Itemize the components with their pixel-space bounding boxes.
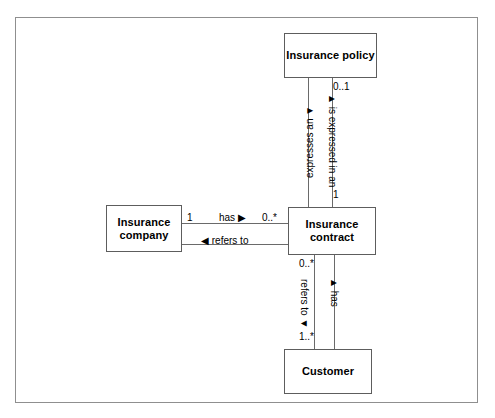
role-label-has-vertical: ▲ has (329, 278, 340, 307)
entity-insurance-company-label-line2: company (120, 229, 169, 241)
role-label-expresses-an: expresses an ▼ (304, 106, 315, 178)
role-label-is-expressed-in-an: ▲ is expressed in an (327, 94, 338, 187)
multiplicity-contract-1: 1 (333, 189, 339, 200)
entity-insurance-company-label: Insurance company (118, 216, 171, 242)
entity-customer-label: Customer (302, 365, 354, 378)
multiplicity-contract-bottom-0-star: 0..* (299, 258, 314, 269)
diagram-canvas: Insurance policy Insurance company Insur… (0, 0, 495, 418)
association-line-has-horizontal (182, 223, 288, 224)
entity-customer[interactable]: Customer (284, 349, 372, 394)
multiplicity-customer-1-star: 1..* (299, 331, 314, 342)
entity-insurance-contract-label-line2: contract (310, 231, 354, 243)
role-label-refers-to-horizontal: ◀ refers to (201, 235, 248, 246)
entity-insurance-policy[interactable]: Insurance policy (284, 33, 377, 78)
diagram-frame: Insurance policy Insurance company Insur… (15, 17, 478, 403)
association-line-refers-to-vertical (314, 255, 315, 349)
entity-insurance-contract-label: Insurance contract (306, 218, 359, 244)
role-label-has-horizontal: has ▶ (219, 212, 246, 223)
entity-insurance-policy-label: Insurance policy (286, 49, 374, 62)
multiplicity-contract-0-star: 0..* (262, 212, 277, 223)
multiplicity-company-1: 1 (187, 212, 193, 223)
entity-insurance-contract[interactable]: Insurance contract (288, 207, 376, 255)
entity-insurance-company[interactable]: Insurance company (106, 205, 182, 252)
entity-insurance-company-label-line1: Insurance (118, 216, 171, 228)
multiplicity-policy-0-1: 0..1 (333, 81, 350, 92)
entity-insurance-contract-label-line1: Insurance (306, 218, 359, 230)
role-label-refers-to-vertical: refers to ▼ (299, 279, 310, 328)
